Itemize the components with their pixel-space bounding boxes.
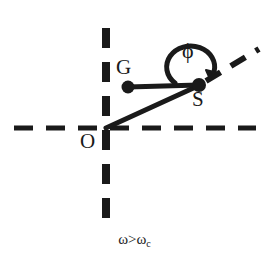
condition-subscript: c [146,238,151,249]
label-origin-o: O [80,131,95,152]
label-angle-phi: ϕ [182,40,194,62]
condition-expression: ω>ω [118,231,146,247]
label-point-g: G [116,57,131,78]
physics-vector-diagram: G S O ϕ ω>ωc [0,0,269,262]
label-frequency-condition: ω>ωc [0,232,269,249]
label-point-s: S [192,89,204,110]
segment-g-to-s [128,85,199,87]
node-marker-g [122,81,135,94]
segment-origin-to-s [106,85,200,128]
diagram-canvas [0,0,269,262]
